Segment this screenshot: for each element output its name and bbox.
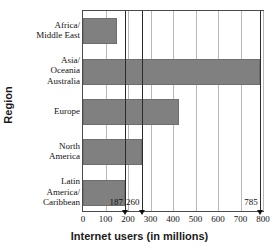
annotation-rule [125,11,126,211]
x-axis-tick-label: 700 [234,214,248,224]
category-label-line: Latin [14,176,80,187]
category-label-line: Europe [14,106,80,117]
x-axis-tick-label: 600 [211,214,225,224]
bar [83,99,179,125]
x-axis-tick-label: 100 [99,214,113,224]
category-label-column: Africa/Middle EastAsia/OceaniaAustraliaE… [14,10,82,212]
annotation-arrow-marker [139,210,145,215]
category-label-line: Australia [14,76,80,87]
category-label-line: America [14,151,80,162]
category-label-line: North [14,141,80,152]
annotation-arrow-marker [257,210,263,215]
bar-chart: Region Africa/Middle EastAsia/OceaniaAus… [0,0,279,250]
category-label: Europe [14,106,80,117]
category-label-line: Africa/ [14,20,80,31]
x-axis-title: Internet users (in millions) [0,230,279,242]
category-label: Africa/Middle East [14,20,80,41]
category-label-line: Asia/ [14,55,80,66]
annotation-label: 260 [122,197,140,207]
annotation-label: 785 [240,197,258,207]
x-axis-tick-labels: 0100200300400500600700800 [82,214,264,228]
category-label-line: Middle East [14,30,80,41]
category-label: LatinAmerica/Caribbean [14,176,80,208]
gridline [196,11,197,211]
gridline [241,11,242,211]
annotation-arrow-marker [122,210,128,215]
category-label-line: America/ [14,187,80,198]
x-axis-tick-label: 400 [166,214,180,224]
gridline [218,11,219,211]
x-axis-tick-label: 0 [81,214,86,224]
annotation-label: 187 [105,197,123,207]
x-axis-tick-label: 200 [121,214,135,224]
y-axis-title-text: Region [2,86,14,123]
annotation-rule [142,11,143,211]
x-axis-tick-label: 500 [189,214,203,224]
plot-inner: 187260785 [83,11,263,211]
bar [83,139,142,165]
bar [83,18,117,44]
plot-area: 187260785 [82,10,264,212]
category-label: Asia/OceaniaAustralia [14,55,80,87]
annotation-rule [260,11,261,211]
bar [83,59,260,85]
category-label: NorthAmerica [14,141,80,162]
x-axis-tick-label: 300 [144,214,158,224]
gridline [263,11,264,211]
category-label-line: Caribbean [14,197,80,208]
category-label-line: Oceania [14,65,80,76]
x-axis-tick-label: 800 [256,214,270,224]
